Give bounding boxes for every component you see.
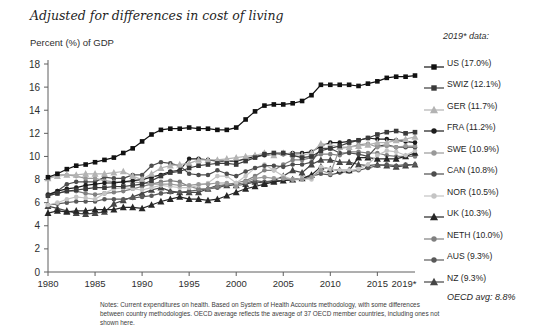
data-point-marker <box>168 182 173 187</box>
data-point-marker <box>328 146 333 151</box>
data-point-marker <box>159 174 164 179</box>
data-point-marker <box>272 151 277 156</box>
data-point-marker <box>272 176 277 181</box>
legend-label: NETH (10.0%) <box>447 230 503 240</box>
data-point-marker <box>206 187 211 192</box>
data-point-marker <box>148 170 155 177</box>
x-axis-tick-label: 2015 <box>367 278 388 289</box>
data-point-marker <box>120 168 127 175</box>
data-point-marker <box>356 152 361 157</box>
data-point-marker <box>177 126 182 131</box>
data-point-marker <box>384 162 389 167</box>
data-point-marker <box>74 195 79 200</box>
x-axis-tick-label: 1990 <box>132 278 153 289</box>
ger-series-marker-icon <box>424 101 444 111</box>
can-series-marker-icon <box>424 165 444 175</box>
data-point-marker <box>394 129 399 134</box>
data-point-marker <box>384 76 389 81</box>
data-point-marker <box>168 170 173 175</box>
data-point-marker <box>121 184 126 189</box>
data-point-marker <box>290 101 295 106</box>
data-point-marker <box>46 193 51 198</box>
data-point-marker <box>46 175 51 180</box>
data-point-marker <box>215 128 220 133</box>
data-point-marker <box>159 160 164 165</box>
data-point-marker <box>253 176 258 181</box>
data-point-marker <box>413 130 418 135</box>
data-point-marker <box>309 160 314 165</box>
legend-marker-glyph <box>424 83 444 93</box>
data-point-marker <box>93 197 98 202</box>
legend-marker-glyph <box>424 277 444 287</box>
data-point-marker <box>215 174 220 179</box>
data-point-marker <box>366 81 371 86</box>
legend-marker-glyph <box>424 105 444 115</box>
legend-marker-glyph <box>424 62 444 72</box>
legend-marker-glyph <box>424 148 444 158</box>
data-point-marker <box>337 83 342 88</box>
data-point-marker <box>356 138 361 143</box>
legend-item-can: CAN (10.8%) <box>424 160 532 182</box>
data-point-marker <box>300 177 305 182</box>
legend-item-nz: NZ (9.3%) <box>424 267 532 289</box>
data-point-marker <box>319 148 324 153</box>
data-point-marker <box>262 103 267 108</box>
data-point-marker <box>337 168 342 173</box>
data-point-marker <box>196 182 201 187</box>
legend-label: FRA (11.2%) <box>447 122 496 132</box>
data-point-marker <box>112 184 117 189</box>
data-point-marker <box>403 131 408 136</box>
data-point-marker <box>121 180 126 185</box>
neth-series-marker-icon <box>424 230 444 240</box>
data-point-marker <box>290 158 295 163</box>
data-point-marker <box>384 148 389 153</box>
data-point-marker <box>206 182 211 187</box>
data-point-marker <box>46 203 51 208</box>
data-point-marker <box>140 182 145 187</box>
data-point-marker <box>375 132 380 137</box>
data-point-marker <box>215 168 220 173</box>
legend-marker-glyph <box>424 234 444 244</box>
data-point-marker <box>55 200 60 205</box>
data-point-marker <box>234 162 239 167</box>
data-point-marker <box>93 192 98 197</box>
data-point-marker <box>83 191 88 196</box>
legend-marker-glyph <box>424 126 444 136</box>
legend-label: NOR (10.5%) <box>447 187 499 197</box>
legend-item-swe: SWE (10.9%) <box>424 138 532 160</box>
data-point-marker <box>55 171 60 176</box>
data-point-marker <box>102 158 107 163</box>
nor-series-marker-icon <box>424 187 444 197</box>
data-point-marker <box>224 171 229 176</box>
data-point-marker <box>83 162 88 167</box>
data-point-marker <box>394 145 399 150</box>
data-point-marker <box>130 178 135 183</box>
data-point-marker <box>74 163 79 168</box>
data-point-marker <box>394 74 399 79</box>
data-point-marker <box>130 196 135 201</box>
data-point-marker <box>262 175 267 180</box>
data-point-marker <box>366 162 371 167</box>
data-point-marker <box>375 153 380 158</box>
data-point-marker <box>130 146 135 151</box>
data-point-marker <box>206 126 211 131</box>
data-point-marker <box>281 151 286 156</box>
y-axis-tick-label: 18 <box>29 59 41 70</box>
data-point-marker <box>149 163 154 168</box>
data-point-marker <box>93 160 98 165</box>
data-point-marker <box>328 83 333 88</box>
data-point-marker <box>431 236 436 241</box>
data-point-marker <box>253 155 258 160</box>
data-point-marker <box>224 161 229 166</box>
data-point-marker <box>328 152 333 157</box>
data-point-marker <box>55 191 60 196</box>
legend-label: UK (10.3%) <box>447 208 491 218</box>
us-series-marker-icon <box>424 58 444 68</box>
data-point-marker <box>413 162 418 167</box>
data-point-marker <box>262 152 267 157</box>
data-point-marker <box>102 197 107 202</box>
data-point-marker <box>347 151 352 156</box>
data-point-marker <box>159 182 164 187</box>
aus-series-marker-icon <box>424 251 444 261</box>
data-point-marker <box>168 190 173 195</box>
